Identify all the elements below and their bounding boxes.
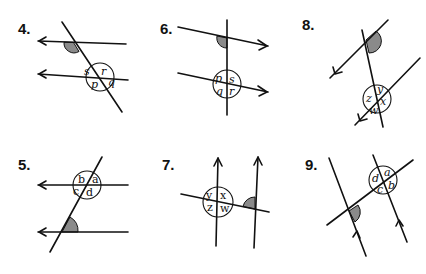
problem-number: 4. — [18, 20, 31, 37]
transversal — [62, 22, 122, 112]
angle-label-r: r — [101, 65, 107, 78]
angle-label-x: x — [380, 95, 387, 108]
transversal — [50, 157, 102, 252]
angle-label-w: w — [220, 202, 230, 215]
angle-label-d: d — [86, 186, 93, 199]
transversal — [327, 160, 413, 225]
problem-7: 7. y x z w — [162, 156, 269, 248]
angle-label-w: w — [369, 104, 379, 117]
problem-number: 7. — [162, 156, 175, 173]
angle-label-q: q — [216, 85, 223, 98]
parallel-line-left — [216, 158, 218, 246]
angle-label-z: z — [207, 201, 213, 214]
problem-4: 4. s r p q — [18, 20, 128, 112]
angle-label-r: r — [229, 85, 235, 98]
worksheet-diagrams: 4. s r p q 6. p s q r 8. y — [0, 0, 426, 274]
arrow-up-icon — [353, 231, 360, 238]
problem-5: 5. b a c d — [18, 156, 128, 252]
parallel-line-upper — [38, 41, 126, 44]
angle-label-p: p — [91, 78, 98, 91]
angle-label-a: a — [92, 173, 99, 186]
problem-number: 9. — [305, 156, 318, 173]
angle-label-c: c — [377, 183, 383, 196]
angle-label-a: a — [384, 166, 391, 179]
angle-label-q: q — [108, 76, 115, 89]
angle-label-p: p — [215, 72, 222, 85]
angle-label-b: b — [388, 179, 395, 192]
problem-9: 9. a d b c — [305, 155, 413, 256]
problem-number: 5. — [18, 156, 31, 173]
problem-8: 8. y z x w — [302, 16, 420, 127]
problem-number: 8. — [302, 16, 315, 33]
parallel-line-left — [329, 158, 366, 256]
problem-6: 6. p s q r — [160, 20, 268, 115]
angle-label-c: c — [73, 185, 79, 198]
angle-label-x: x — [220, 189, 227, 202]
angle-label-s: s — [84, 65, 90, 78]
parallel-line-upper — [330, 20, 388, 78]
problem-number: 6. — [160, 20, 173, 37]
